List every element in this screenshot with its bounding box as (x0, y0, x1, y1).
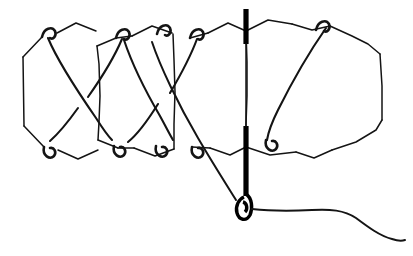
figure-root: Needle threaded through a woven band Han… (0, 0, 413, 256)
band-left-edge (23, 57, 24, 126)
woven-band-needle-illustration (0, 0, 413, 256)
